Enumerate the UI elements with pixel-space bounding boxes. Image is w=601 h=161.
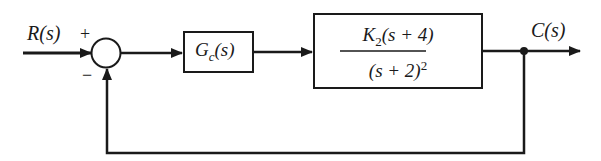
plus-sign: + [80, 24, 90, 45]
controller-label-main: G [195, 39, 209, 60]
numerator-gain: K [362, 24, 375, 45]
minus-sign: − [82, 65, 92, 86]
controller-label: Gc(s) [195, 39, 235, 65]
output-label: C(s) [531, 19, 565, 42]
denominator-power: 2 [421, 58, 428, 73]
denominator-factor: (s + 2) [369, 60, 421, 81]
plant-transfer-function: K2(s + 4) (s + 2)2 [313, 14, 483, 89]
summing-junction [92, 39, 121, 68]
controller-label-tail: (s) [215, 39, 235, 60]
plant-denominator: (s + 2)2 [313, 58, 483, 82]
numerator-factor: (s + 4) [382, 24, 434, 45]
plant-numerator: K2(s + 4) [313, 24, 483, 50]
input-label: R(s) [27, 22, 60, 45]
